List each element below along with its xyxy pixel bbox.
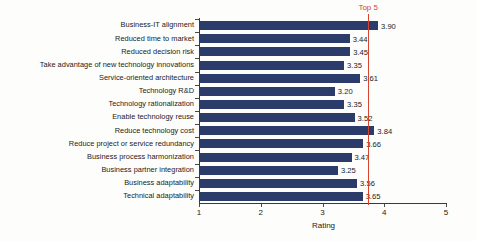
category-label: Take advantage of new technology innovat… xyxy=(0,61,194,69)
bar xyxy=(199,100,344,109)
category-label: Technology rationalization xyxy=(0,100,194,108)
bar xyxy=(199,61,344,70)
category-label: Service-oriented architecture xyxy=(0,74,194,82)
bar xyxy=(199,139,363,148)
bar-value-label: 3.45 xyxy=(353,48,368,57)
bar xyxy=(199,166,338,175)
x-axis-tick-label: 4 xyxy=(382,208,386,218)
bar-value-label: 3.44 xyxy=(353,35,368,44)
y-axis-line xyxy=(199,18,200,204)
category-label: Reduced time to market xyxy=(0,35,194,43)
category-label: Business process harmonization xyxy=(0,153,194,161)
y-axis-tick xyxy=(195,164,199,165)
x-axis-tick xyxy=(323,204,324,207)
x-axis-tick-label: 5 xyxy=(444,208,448,218)
bar-value-label: 3.84 xyxy=(377,127,392,136)
x-axis-tick-label: 3 xyxy=(320,208,324,218)
y-axis-tick xyxy=(195,58,199,59)
category-label: Enable technology reuse xyxy=(0,113,194,121)
bar xyxy=(199,192,363,201)
bar xyxy=(199,34,350,43)
y-axis-tick xyxy=(195,19,199,20)
rating-bar-chart: Business-IT alignmentReduced time to mar… xyxy=(0,0,477,241)
bar-value-label: 3.35 xyxy=(347,100,362,109)
bar-value-label: 3.20 xyxy=(338,87,353,96)
category-axis-labels: Business-IT alignmentReduced time to mar… xyxy=(0,19,196,203)
y-axis-tick xyxy=(195,111,199,112)
bar xyxy=(199,126,374,135)
bar xyxy=(199,87,335,96)
y-axis-tick xyxy=(195,150,199,151)
y-axis-tick xyxy=(195,85,199,86)
bar-value-label: 3.90 xyxy=(381,22,396,31)
bar-value-label: 3.35 xyxy=(347,61,362,70)
x-axis-title: Rating xyxy=(0,221,477,230)
x-axis-title-text: Rating xyxy=(312,221,335,230)
category-label: Technical adaptability xyxy=(0,192,194,200)
y-axis-tick xyxy=(195,177,199,178)
y-axis-tick xyxy=(195,32,199,33)
bar-value-label: 3.52 xyxy=(358,114,373,123)
category-label: Reduced decision risk xyxy=(0,48,194,56)
bar-value-label: 3.61 xyxy=(363,74,378,83)
category-label: Reduce project or service redundancy xyxy=(0,140,194,148)
y-axis-tick xyxy=(195,45,199,46)
x-axis-tick xyxy=(446,204,447,207)
top-5-threshold-label: Top 5 xyxy=(358,3,378,13)
bar xyxy=(199,21,378,30)
category-label: Technology R&D xyxy=(0,87,194,95)
y-axis-tick xyxy=(195,72,199,73)
category-label: Reduce technology cost xyxy=(0,127,194,135)
bar xyxy=(199,179,357,188)
bar xyxy=(199,153,352,162)
plot-area: 3.903.443.453.353.613.203.353.523.843.66… xyxy=(199,19,446,203)
y-axis-tick xyxy=(195,124,199,125)
bar xyxy=(199,47,350,56)
y-axis-tick xyxy=(195,190,199,191)
top-5-threshold-line xyxy=(368,14,369,205)
bar-value-label: 3.25 xyxy=(341,166,356,175)
bar-value-label: 3.47 xyxy=(355,153,370,162)
category-label: Business partner integration xyxy=(0,166,194,174)
x-axis-tick xyxy=(199,204,200,207)
x-axis-tick-label: 1 xyxy=(197,208,201,218)
bar xyxy=(199,113,355,122)
x-axis-tick xyxy=(384,204,385,207)
y-axis-tick xyxy=(195,137,199,138)
category-label: Business-IT alignment xyxy=(0,21,194,29)
y-axis-tick xyxy=(195,98,199,99)
bar xyxy=(199,74,360,83)
x-axis-tick xyxy=(261,204,262,207)
category-label: Business adaptability xyxy=(0,179,194,187)
x-axis-tick-label: 2 xyxy=(259,208,263,218)
